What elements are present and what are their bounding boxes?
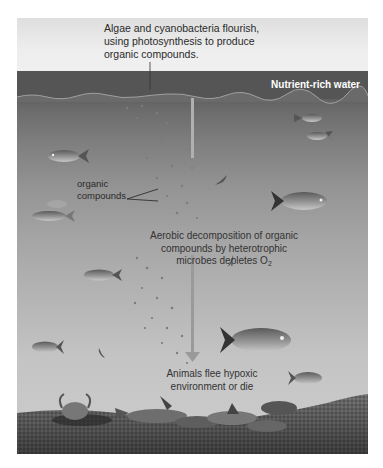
label-line: Animals flee hypoxic [152,368,272,381]
aerobic-decomposition-label: Aerobic decomposition of organic compoun… [129,230,319,271]
organic-compounds-label: organic compounds [77,178,126,202]
caption-line: using photosynthesis to produce [104,35,304,48]
label-line: compounds [77,190,126,202]
organic-compounds-pointer [127,189,158,201]
label-line: Aerobic decomposition of organic [129,230,319,243]
diagram-panel: Algae and cyanobacteria flourish, using … [17,18,368,454]
label-line: environment or die [152,381,272,394]
nutrient-rich-water-label: Nutrient-rich water [271,78,360,91]
algae-caption: Algae and cyanobacteria flourish, using … [104,22,304,61]
label-line: microbes depletes O2 [129,255,319,271]
subscript: 2 [268,260,272,267]
caption-line: Algae and cyanobacteria flourish, [104,22,304,35]
animals-flee-label: Animals flee hypoxic environment or die [152,368,272,393]
label-line: compounds by heterotrophic [129,243,319,256]
label-line: organic [77,178,126,190]
caption-line: organic compounds. [104,48,304,61]
crab-icon [60,394,90,420]
label-text: microbes depletes O [176,255,268,266]
